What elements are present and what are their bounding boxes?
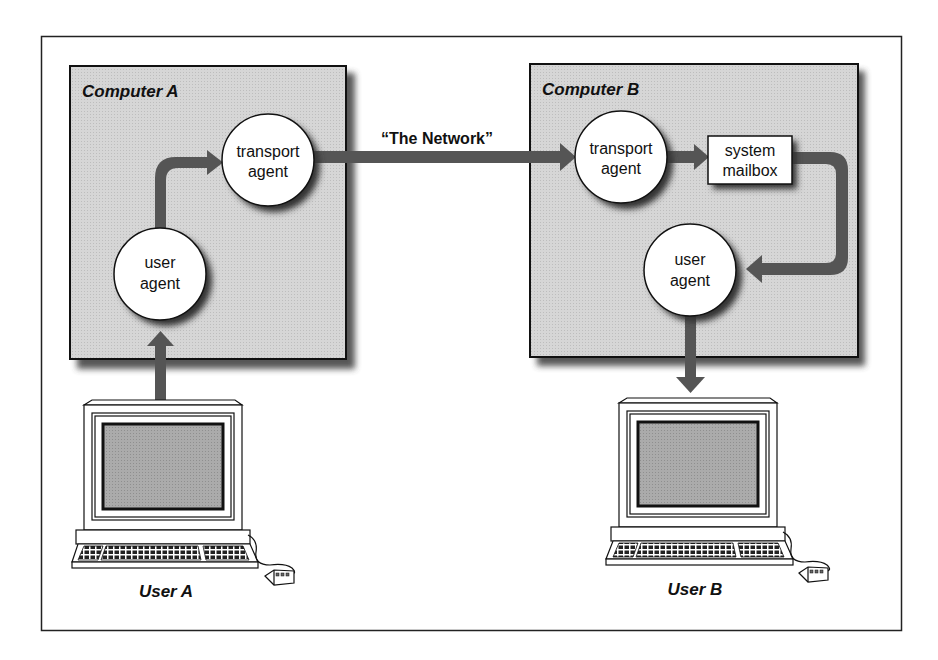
- user-a-label: User A: [139, 582, 193, 601]
- computer-a-title: Computer A: [82, 82, 179, 101]
- transport-agent-a-line1: transport: [236, 143, 300, 160]
- user-agent-b-line1: user: [674, 251, 706, 268]
- computer-b-title: Computer B: [542, 80, 639, 99]
- transport-agent-b-line1: transport: [589, 140, 653, 157]
- diagram-canvas: Computer A Computer B: [0, 0, 938, 660]
- system-mailbox: system mailbox: [708, 136, 797, 189]
- transport-agent-b-line2: agent: [601, 160, 642, 177]
- network-label: “The Network”: [381, 130, 493, 147]
- user-agent-a-line1: user: [144, 254, 176, 271]
- system-mailbox-line1: system: [725, 142, 776, 159]
- computer-a-box: Computer A: [70, 66, 355, 369]
- user-b-label: User B: [668, 580, 723, 599]
- user-agent-b-line2: agent: [670, 272, 711, 289]
- transport-agent-a-line2: agent: [248, 163, 289, 180]
- user-agent-a-line2: agent: [140, 275, 181, 292]
- system-mailbox-line2: mailbox: [722, 162, 777, 179]
